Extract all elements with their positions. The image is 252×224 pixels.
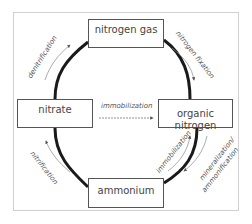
arc-nitrate-to-ammonium [55,128,88,187]
node-organic-nitrogen: organic nitrogen [158,99,233,128]
node-nitrogen-gas-label: nitrogen gas [95,24,158,35]
node-ammonium: ammonium [88,178,164,208]
node-nitrogen-gas: nitrogen gas [88,19,164,48]
node-ammonium-label: ammonium [98,185,155,196]
node-organic-nitrogen-label: organic nitrogen [175,108,217,131]
node-nitrate: nitrate [17,99,93,128]
label-immobilization-center: immobilization [101,102,153,110]
node-nitrate-label: nitrate [38,104,71,115]
arc-nitrate-to-nitrogen-gas [55,42,88,99]
